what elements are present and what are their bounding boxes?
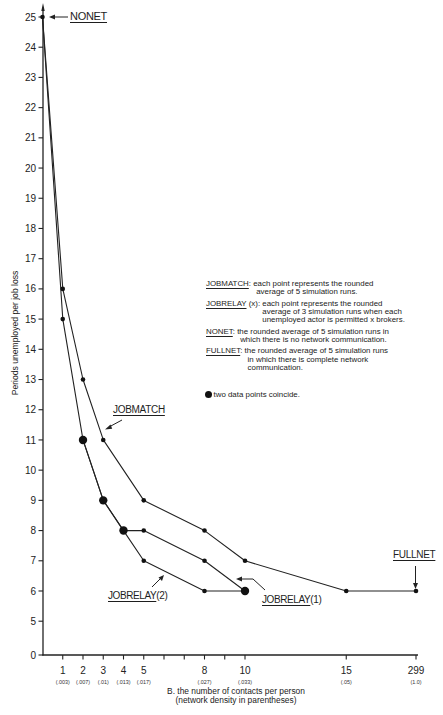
x-tick-density-label: (.027) [197, 679, 211, 685]
x-tick-label: 15 [341, 665, 353, 676]
y-tick-label: 15 [25, 314, 37, 325]
legend-key-suffix: (x): [247, 299, 261, 308]
data-point [344, 589, 349, 594]
legend-entry-fullnet: FULLNET: the rounded average of 5 simula… [206, 347, 443, 372]
jobrelay2-arrow-icon [152, 578, 161, 587]
legend-key: FULLNET [206, 346, 240, 355]
x-tick-label: 1 [60, 665, 66, 676]
fullnet-arrowhead-icon [413, 583, 418, 589]
legend-entry-jobrelay: JOBRELAY (x): each point represents the … [206, 300, 443, 325]
y-tick-label: 20 [25, 163, 37, 174]
x-tick-label: 10 [239, 665, 251, 676]
legend-line: unemployed actor is permitted x brokers. [262, 316, 405, 324]
y-tick-label: 10 [25, 465, 37, 476]
x-tick-density-label: (.003) [56, 679, 70, 685]
nonet-arrowhead-icon [49, 15, 55, 20]
legend-key-suffix: : [233, 327, 235, 336]
annotation-fullnet: FULLNET [393, 550, 435, 560]
coincident-data-point [241, 587, 249, 595]
legend-line: which there is no network communication. [237, 336, 389, 344]
y-tick-label: 12 [25, 404, 37, 415]
x-tick-density-label: (.013) [116, 679, 130, 685]
x-tick-density-label: (.01) [98, 679, 109, 685]
data-point [141, 558, 146, 563]
y-axis-arrow-icon [41, 3, 44, 11]
coincident-data-point [119, 526, 127, 534]
x-tick-density-label: (.007) [76, 679, 90, 685]
data-point [101, 438, 106, 443]
annotation-jobrelay-2-name: JOBRELAY [108, 590, 156, 601]
jobmatch-arrowhead-icon [105, 425, 112, 430]
data-point [202, 558, 207, 563]
y-tick-label: 22 [25, 102, 37, 113]
y-tick-label: 5 [30, 616, 36, 627]
y-tick-label: 13 [25, 374, 37, 385]
y-tick-label: 11 [26, 435, 37, 446]
data-point [141, 498, 146, 503]
coincident-data-point [99, 496, 107, 504]
x-tick-label: 2 [80, 665, 86, 676]
y-tick-label: 6 [30, 586, 36, 597]
x-axis-note: (network density in parentheses) [165, 696, 307, 705]
x-ticks: 1(.003)2(.007)3(.01)4(.013)5(.017)8(.027… [56, 655, 425, 685]
x-tick-density-label: (.033) [238, 679, 252, 685]
legend-key: JOBMATCH [206, 279, 249, 288]
y-axis-label: Periods unemployed per job loss [10, 271, 20, 396]
legend-line: communication. [245, 364, 388, 372]
coincident-data-point [79, 436, 87, 444]
annotation-jobmatch: JOBMATCH [113, 405, 165, 415]
y-tick-label: 18 [25, 223, 37, 234]
x-tick-density-label: (.017) [137, 679, 151, 685]
y-tick-label: 16 [25, 283, 37, 294]
x-tick-label: 8 [202, 665, 208, 676]
y-tick-label: 8 [30, 525, 36, 536]
annotation-nonet-label: NONET [70, 10, 107, 22]
annotation-jobrelay-2: JOBRELAY(2) [108, 591, 167, 601]
x-tick-density-label: (1.0) [410, 679, 421, 685]
legend-key: JOBRELAY [206, 299, 247, 308]
data-point [202, 528, 207, 533]
data-point [141, 528, 146, 533]
y-tick-label: 17 [25, 253, 37, 264]
annotation-fullnet-label: FULLNET [393, 549, 435, 560]
x-tick-label: 4 [121, 665, 127, 676]
large-dot-icon [205, 391, 212, 398]
x-tick-label: 5 [141, 665, 147, 676]
x-axis-label: B. the number of contacts per person (ne… [165, 687, 307, 705]
annotation-jobrelay-1: JOBRELAY(1) [262, 595, 321, 605]
data-point [40, 15, 45, 20]
legend: JOBMATCH: each point represents the roun… [206, 280, 443, 375]
coincide-note-text: two data points coincide. [214, 390, 300, 399]
x-tick-density-label: (.05) [341, 679, 352, 685]
data-point [243, 558, 248, 563]
annotation-jobmatch-label: JOBMATCH [113, 404, 165, 415]
coincide-note: two data points coincide. [205, 390, 300, 399]
legend-key: NONET [206, 327, 233, 336]
series-line-jobrelay2 [83, 440, 245, 591]
legend-entry-nonet: NONET: the rounded average of 5 simulati… [206, 328, 443, 345]
legend-key-suffix: : [240, 346, 242, 355]
y-tick-label: 24 [25, 42, 37, 53]
y-tick-label: 9 [30, 495, 36, 506]
x-tick-label: 3 [100, 665, 106, 676]
legend-key-suffix: : [249, 279, 251, 288]
y-tick-label: 14 [25, 344, 37, 355]
data-point [60, 287, 65, 292]
data-point [81, 377, 86, 382]
jobrelay1-arrowhead-icon [236, 577, 242, 582]
legend-line: average of 5 simulation runs. [253, 288, 373, 296]
data-point [60, 317, 65, 322]
y-tick-label: 0 [30, 650, 36, 661]
annotation-jobrelay-2-arg: (2) [156, 590, 167, 601]
annotation-jobrelay-1-name: JOBRELAY [262, 594, 310, 605]
y-tick-label: 23 [25, 72, 37, 83]
x-tick-label: 299 [408, 665, 425, 676]
data-point [414, 589, 419, 594]
annotation-jobrelay-1-arg: (1) [310, 594, 321, 605]
data-point [202, 589, 207, 594]
y-tick-label: 21 [25, 132, 37, 143]
y-tick-label: 7 [30, 555, 36, 566]
y-tick-label: 25 [25, 12, 37, 23]
y-ticks: 05678910111213141516171819202122232425 [25, 12, 43, 661]
annotation-nonet: NONET [70, 11, 107, 22]
